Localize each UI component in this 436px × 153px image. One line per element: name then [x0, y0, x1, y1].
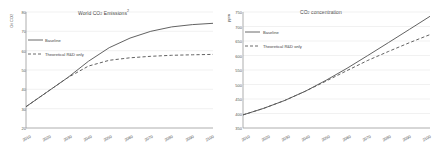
- gridlines: [243, 12, 430, 114]
- figure-container: Gt CO2 World CO2 Emissions2 80 70 60 50 …: [0, 0, 436, 153]
- series-line-theoretical-rd-only: [26, 54, 213, 106]
- series-line-baseline: [243, 16, 430, 115]
- chart-panel-world-co2-emissions: Gt CO2 World CO2 Emissions2 80 70 60 50 …: [0, 0, 218, 153]
- chart-plot-left: [0, 0, 218, 153]
- gridlines: [26, 12, 213, 109]
- series-line-baseline: [26, 23, 213, 106]
- chart-plot-right: [218, 0, 436, 153]
- chart-panel-co2-concentration: ppm CO2 concentration 750 700 650 600 55…: [218, 0, 436, 153]
